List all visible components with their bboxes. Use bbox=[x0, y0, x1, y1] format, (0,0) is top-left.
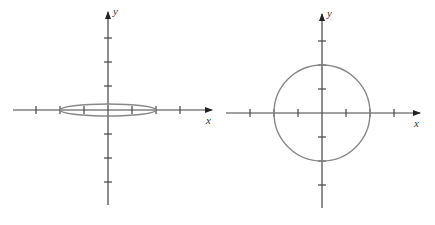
diagram-canvas: xy xy bbox=[0, 0, 435, 225]
x-axis-label: x bbox=[205, 114, 211, 126]
x-axis-label: x bbox=[413, 117, 419, 129]
y-axis-label: y bbox=[326, 7, 332, 19]
y-axis-label: y bbox=[112, 5, 118, 17]
ellipse-plot: xy bbox=[13, 5, 212, 205]
circle-plot: xy bbox=[226, 7, 420, 208]
